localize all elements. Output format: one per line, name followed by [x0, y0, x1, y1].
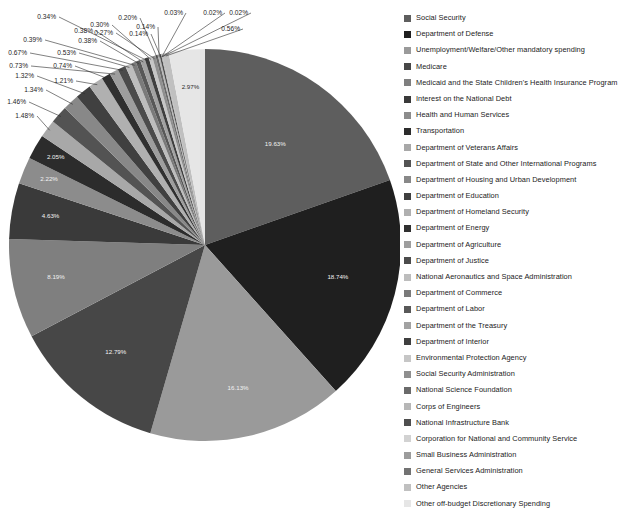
- legend-item-label: Other Agencies: [416, 479, 467, 495]
- legend-swatch-icon: [404, 47, 411, 54]
- legend-swatch-icon: [404, 468, 411, 475]
- legend-swatch-icon: [404, 290, 411, 297]
- leader-line: [151, 34, 161, 57]
- legend-swatch-icon: [404, 96, 411, 103]
- legend-swatch-icon: [404, 257, 411, 264]
- legend-swatch-icon: [404, 209, 411, 216]
- legend-swatch-icon: [404, 79, 411, 86]
- legend-item-label: General Services Administration: [416, 463, 523, 479]
- pie-slice-percent-label: 0.67%: [8, 49, 27, 56]
- legend-item[interactable]: Other Agencies: [404, 479, 636, 495]
- pie-slice-percent-label: 1.48%: [15, 112, 34, 119]
- legend-swatch-icon: [404, 112, 411, 119]
- leader-line: [31, 66, 115, 74]
- legend-item[interactable]: National Aeronautics and Space Administr…: [404, 269, 636, 285]
- pie-slice-percent-label: 2.22%: [40, 175, 58, 182]
- pie-slice-percent-label: 1.21%: [54, 77, 73, 84]
- legend-swatch-icon: [404, 241, 411, 248]
- legend-swatch-icon: [404, 322, 411, 329]
- legend-item-label: Department of Justice: [416, 253, 489, 269]
- pie-slice-percent-label: 0.02%: [229, 9, 248, 16]
- legend-item-label: Other off-budget Discretionary Spending: [416, 496, 550, 512]
- legend-item-label: Department of Interior: [416, 334, 489, 350]
- legend-item-label: Department of Housing and Urban Developm…: [416, 172, 576, 188]
- legend-item-label: Unemployment/Welfare/Other mandatory spe…: [416, 42, 585, 58]
- legend-item[interactable]: Department of Veterans Affairs: [404, 140, 636, 156]
- pie-slice-percent-label: 0.53%: [57, 49, 76, 56]
- legend-item[interactable]: Social Security Administration: [404, 366, 636, 382]
- legend-item[interactable]: General Services Administration: [404, 463, 636, 479]
- legend-item[interactable]: Department of State and Other Internatio…: [404, 156, 636, 172]
- pie-slice-percent-label: 2.05%: [47, 153, 65, 160]
- legend-item[interactable]: Department of Homeland Security: [404, 204, 636, 220]
- pie-slice-percent-label: 19.63%: [265, 140, 286, 147]
- legend-item[interactable]: Department of Defense: [404, 26, 636, 42]
- legend-item[interactable]: Department of Agriculture: [404, 237, 636, 253]
- legend-item[interactable]: Department of Education: [404, 188, 636, 204]
- legend-item[interactable]: Department of Energy: [404, 220, 636, 236]
- legend-swatch-icon: [404, 160, 411, 167]
- legend-item-label: Health and Human Services: [416, 107, 509, 123]
- legend-item[interactable]: Medicare: [404, 59, 636, 75]
- legend-swatch-icon: [404, 403, 411, 410]
- legend-item[interactable]: Health and Human Services: [404, 107, 636, 123]
- legend-swatch-icon: [404, 274, 411, 281]
- pie-slice-percent-label: 12.79%: [105, 348, 126, 355]
- pie-slice-percent-label: 0.38%: [78, 37, 97, 44]
- legend-swatch-icon: [404, 484, 411, 491]
- legend-item-label: Interest on the National Debt: [416, 91, 512, 107]
- legend-item[interactable]: Transportation: [404, 123, 636, 139]
- pie-slice-percent-label: 1.34%: [24, 86, 43, 93]
- legend-item[interactable]: Department of Interior: [404, 334, 636, 350]
- legend-item[interactable]: Department of Commerce: [404, 285, 636, 301]
- legend-item[interactable]: Medicaid and the State Children's Health…: [404, 75, 636, 91]
- leader-line: [79, 53, 129, 67]
- pie-slice-percent-label: 0.30%: [90, 21, 109, 28]
- legend-item[interactable]: Department of Justice: [404, 253, 636, 269]
- pie-slice-percent-label: 18.74%: [327, 273, 348, 280]
- legend-item-label: National Science Foundation: [416, 382, 512, 398]
- pie-slice-percent-label: 4.63%: [42, 212, 60, 219]
- legend-item[interactable]: Interest on the National Debt: [404, 91, 636, 107]
- pie-slice-percent-label: 1.32%: [15, 72, 34, 79]
- legend-item[interactable]: Other off-budget Discretionary Spending: [404, 496, 636, 512]
- legend-item-label: National Infrastructure Bank: [416, 415, 509, 431]
- legend-swatch-icon: [404, 452, 411, 459]
- legend-item-label: Small Business Administration: [416, 447, 516, 463]
- legend-item[interactable]: Department of Labor: [404, 301, 636, 317]
- leader-line: [75, 66, 107, 79]
- legend-item-label: Department of Veterans Affairs: [416, 140, 518, 156]
- legend-item[interactable]: National Science Foundation: [404, 382, 636, 398]
- pie-slice-percent-label: 0.74%: [53, 62, 72, 69]
- pie-slice-percent-label: 0.03%: [164, 9, 183, 16]
- legend-item-label: Department of Commerce: [416, 285, 502, 301]
- legend-item-label: Transportation: [416, 123, 464, 139]
- legend-item-label: Department of State and Other Internatio…: [416, 156, 596, 172]
- legend-item[interactable]: Unemployment/Welfare/Other mandatory spe…: [404, 42, 636, 58]
- legend-item-label: Environmental Protection Agency: [416, 350, 526, 366]
- pie-slices-group: [9, 49, 400, 441]
- legend-item[interactable]: Department of the Treasury: [404, 318, 636, 334]
- legend-swatch-icon: [404, 176, 411, 183]
- legend-swatch-icon: [404, 387, 411, 394]
- legend-item[interactable]: Environmental Protection Agency: [404, 350, 636, 366]
- legend-item[interactable]: Corporation for National and Community S…: [404, 431, 636, 447]
- legend: Social SecurityDepartment of DefenseUnem…: [404, 10, 636, 470]
- pie-slice-percent-label: 8.19%: [47, 273, 65, 280]
- pie-slice-percent-label: 1.46%: [7, 98, 26, 105]
- legend-item[interactable]: Department of Housing and Urban Developm…: [404, 172, 636, 188]
- pie-slice-percent-label: 0.34%: [37, 13, 56, 20]
- legend-item[interactable]: Small Business Administration: [404, 447, 636, 463]
- pie-slice-percent-label: 2.97%: [182, 83, 200, 90]
- pie-slice-percent-label: 0.02%: [203, 9, 222, 16]
- pie-slice-percent-label: 0.20%: [118, 14, 137, 21]
- legend-item[interactable]: Corps of Engineers: [404, 399, 636, 415]
- legend-swatch-icon: [404, 419, 411, 426]
- legend-item[interactable]: Social Security: [404, 10, 636, 26]
- legend-item-label: Department of the Treasury: [416, 318, 507, 334]
- legend-item-label: Department of Homeland Security: [416, 204, 529, 220]
- legend-item-label: Department of Education: [416, 188, 499, 204]
- legend-item[interactable]: National Infrastructure Bank: [404, 415, 636, 431]
- legend-item-label: Medicare: [416, 59, 447, 75]
